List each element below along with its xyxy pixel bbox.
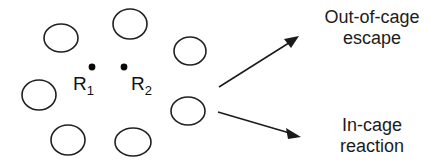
solvent-cage-group	[22, 9, 206, 156]
radical-R1-group: R1	[73, 64, 95, 98]
arrow-in-cage-shaft	[218, 112, 293, 134]
radical-R1-dot-icon	[89, 64, 96, 71]
arrow-out-of-cage-shaft	[219, 41, 292, 87]
solvent-circle-2	[113, 9, 147, 39]
solvent-circle-7	[22, 80, 56, 110]
radical-R2-dot-icon	[121, 64, 128, 71]
in-cage-reaction-label: In-cage reaction	[304, 115, 440, 157]
solvent-circle-5	[115, 128, 151, 156]
solvent-circle-4	[171, 97, 205, 125]
radical-R2-label: R2	[131, 73, 152, 98]
arrow-in-cage-head-icon	[286, 128, 301, 139]
radical-R2-group: R2	[121, 64, 152, 98]
solvent-cage-diagram: R1 R2 Out-of-cage escape In-cage reactio…	[0, 0, 441, 166]
solvent-circle-6	[51, 125, 85, 155]
arrow-out-of-cage-head-icon	[284, 36, 299, 48]
out-of-cage-escape-label: Out-of-cage escape	[304, 7, 440, 49]
arrow-in-cage	[218, 112, 301, 139]
solvent-circle-3	[174, 37, 206, 65]
radical-R1-label: R1	[73, 73, 94, 98]
arrow-out-of-cage	[219, 36, 299, 87]
solvent-circle-1	[44, 24, 78, 52]
